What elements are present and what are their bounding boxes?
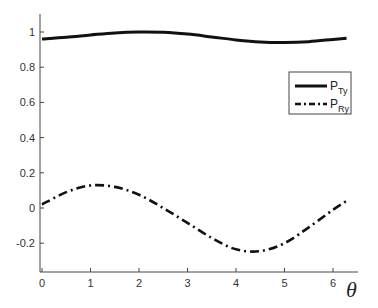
series-line-p-ry [42, 185, 347, 252]
x-tick-label: 4 [233, 277, 239, 289]
x-tick-label: 5 [281, 277, 287, 289]
x-tick-label: 1 [87, 277, 93, 289]
y-tick-label: 1 [29, 26, 35, 38]
line-chart: -0.200.20.40.60.81 0123456 θ PTy PRy [0, 0, 378, 308]
axes [40, 14, 358, 272]
y-tick-label: 0.4 [20, 132, 35, 144]
y-tick-label: 0.2 [20, 167, 35, 179]
legend: PTy PRy [289, 72, 351, 114]
y-tick-label: 0.6 [20, 96, 35, 108]
x-tick-label: 0 [39, 277, 45, 289]
y-tick-label: 0.8 [20, 61, 35, 73]
x-tick-label: 3 [184, 277, 190, 289]
x-axis-label: θ [346, 277, 357, 302]
x-tick-label: 2 [136, 277, 142, 289]
x-tick-label: 6 [330, 277, 336, 289]
series-line-p-ty [42, 32, 347, 43]
x-ticks: 0123456 [39, 268, 336, 289]
y-tick-label: -0.2 [16, 237, 35, 249]
plot-series [42, 32, 347, 252]
y-tick-label: 0 [29, 202, 35, 214]
